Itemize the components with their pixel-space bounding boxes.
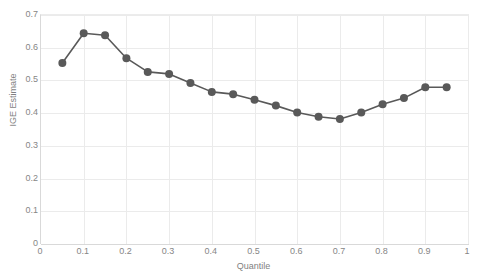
line-chart: IGE Estimate 00.10.20.30.40.50.60.7 00.1…: [0, 0, 480, 277]
x-tick-label: 0.1: [68, 247, 98, 256]
x-tick-label: 0: [25, 247, 55, 256]
x-tick-label: 1: [452, 247, 480, 256]
x-axis-title: Quantile: [40, 261, 467, 271]
x-tick-label: 0.8: [367, 247, 397, 256]
x-tick-label: 0.7: [324, 247, 354, 256]
x-tick-label: 0.4: [196, 247, 226, 256]
x-tick-label: 0.5: [239, 247, 269, 256]
x-axis-tick-labels: 00.10.20.30.40.50.60.70.80.91: [0, 0, 480, 277]
x-tick-label: 0.6: [281, 247, 311, 256]
x-tick-label: 0.9: [409, 247, 439, 256]
x-tick-label: 0.2: [110, 247, 140, 256]
x-tick-label: 0.3: [153, 247, 183, 256]
